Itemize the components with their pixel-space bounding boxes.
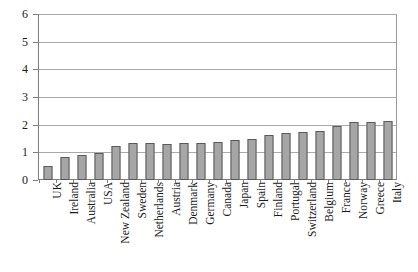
x-tick-label: France [341,182,353,213]
x-tick-mark [311,180,312,183]
bar-slot [294,15,311,180]
x-tick-mark [141,180,142,183]
x-tick-mark [90,180,91,183]
bars-group [39,15,396,180]
bar[interactable] [60,157,69,180]
y-axis: 0123456 [0,0,38,194]
bar[interactable] [230,140,239,180]
bar-chart: 0123456 UKIrelandAustraliaUSANew Zealand… [0,0,418,272]
x-tick-label: Switzerland [307,182,319,237]
bar-slot [209,15,226,180]
x-tick-mark [260,180,261,183]
x-tick-label: Japan [239,182,251,208]
x-tick-label: Finland [273,182,285,217]
bar-slot [158,15,175,180]
bar[interactable] [315,131,324,181]
x-tick-label: Portugal [290,182,302,221]
x-tick-mark [107,180,108,183]
bar-slot [73,15,90,180]
x-tick-label: Australia [86,182,98,224]
bar-slot [243,15,260,180]
x-tick-label: USA [103,182,115,205]
bar-slot [141,15,158,180]
bar[interactable] [281,133,290,180]
bar[interactable] [264,135,273,180]
x-tick-mark [328,180,329,183]
y-tick-label: 5 [22,36,28,48]
bar[interactable] [196,143,205,180]
x-tick-label: Germany [205,182,217,225]
bar-slot [39,15,56,180]
x-tick-label: Norway [358,182,370,219]
bar[interactable] [247,139,256,180]
x-tick-mark [345,180,346,183]
x-tick-mark [294,180,295,183]
x-tick-label: New Zealand [120,182,132,244]
x-tick-label: Austria [171,182,183,216]
bar[interactable] [383,121,392,180]
bar-slot [311,15,328,180]
x-tick-label: Ireland [69,182,81,215]
y-tick-label: 0 [22,174,28,186]
x-tick-mark [209,180,210,183]
bar-slot [379,15,396,180]
bar[interactable] [94,153,103,181]
bar-slot [277,15,294,180]
x-tick-mark [192,180,193,183]
x-tick-mark [226,180,227,183]
x-tick-mark [158,180,159,183]
bar[interactable] [298,132,307,180]
x-tick-label: Belgium [324,182,336,222]
y-tick-label: 4 [22,63,28,75]
x-tick-label: Italy [392,182,404,203]
bar[interactable] [332,126,341,180]
bar-slot [90,15,107,180]
x-tick-label: Netherlands [154,182,166,238]
bar[interactable] [111,146,120,180]
bar[interactable] [77,155,86,180]
bar-slot [192,15,209,180]
bar-slot [124,15,141,180]
bar[interactable] [366,122,375,180]
x-tick-label: Canada [222,182,234,216]
bar-slot [56,15,73,180]
x-tick-label: UK [52,182,64,199]
bar[interactable] [145,143,154,180]
bar[interactable] [349,122,358,180]
x-tick-mark [243,180,244,183]
bar[interactable] [128,143,137,180]
bar[interactable] [179,143,188,180]
x-tick-label: Sweden [137,182,149,218]
x-tick-mark [362,180,363,183]
y-tick-label: 6 [22,8,28,20]
bar[interactable] [162,144,171,180]
bar[interactable] [43,166,52,180]
bar-slot [226,15,243,180]
bar-slot [328,15,345,180]
y-tick-mark [33,180,38,181]
bar-slot [260,15,277,180]
y-tick-label: 3 [22,91,28,103]
y-tick-label: 2 [22,119,28,131]
x-tick-label: Denmark [188,182,200,225]
x-tick-mark [73,180,74,183]
x-tick-mark [124,180,125,183]
x-tick-mark [277,180,278,183]
x-tick-mark [379,180,380,183]
x-tick-mark [175,180,176,183]
bar[interactable] [213,142,222,181]
x-tick-mark [39,180,40,183]
y-tick-label: 1 [22,146,28,158]
bar-slot [345,15,362,180]
bar-slot [362,15,379,180]
x-tick-mark [56,180,57,183]
bar-slot [107,15,124,180]
bar-slot [175,15,192,180]
x-tick-label: Spain [256,182,268,208]
x-tick-label: Greece [375,182,387,215]
x-axis: UKIrelandAustraliaUSANew ZealandSwedenNe… [39,182,396,270]
